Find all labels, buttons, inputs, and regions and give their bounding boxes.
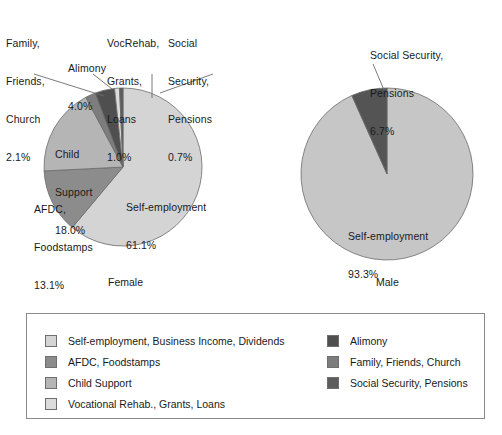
callout-line: Loans — [107, 113, 159, 126]
legend-item: Social Security, Pensions — [327, 373, 468, 393]
slice-label-value: 13.1% — [34, 279, 93, 292]
legend-swatch — [45, 356, 57, 368]
callout-line: Alimony — [68, 62, 106, 75]
legend-item: Child Support — [45, 373, 285, 393]
legend-swatch — [327, 377, 339, 389]
legend-label: AFDC, Foodstamps — [68, 356, 160, 368]
legend-label: Child Support — [68, 377, 132, 389]
legend-label: Self-employment, Business Income, Divide… — [68, 335, 285, 347]
slice-label-line: AFDC, — [34, 203, 93, 216]
callout-value: 1.0% — [107, 151, 159, 164]
female-chart-caption: Female — [108, 276, 143, 288]
callout-value: 6.7% — [370, 125, 443, 138]
legend-swatch — [45, 398, 57, 410]
legend-item: Family, Friends, Church — [327, 352, 468, 372]
callout-value: 4.0% — [68, 100, 106, 113]
legend-item: Self-employment, Business Income, Divide… — [45, 331, 285, 351]
callout-line: Social Security, — [370, 49, 443, 62]
callout-line: Family, — [6, 37, 45, 50]
callout-vocrehab-grants-loans: VocRehab, Grants, Loans 1.0% — [107, 12, 159, 188]
slice-label-line: Foodstamps — [34, 241, 93, 254]
legend-item: Alimony — [327, 331, 468, 351]
legend-swatch — [45, 377, 57, 389]
callout-value: 0.7% — [168, 151, 212, 164]
callout-male-social-security-pensions: Social Security, Pensions 6.7% — [370, 24, 443, 163]
callout-line: Pensions — [370, 87, 443, 100]
slice-label-female-afdc-foodstamps: AFDC, Foodstamps 13.1% — [34, 178, 93, 317]
legend-label: Family, Friends, Church — [350, 356, 461, 368]
legend-label: Social Security, Pensions — [350, 377, 468, 389]
callout-social-security-pensions: Social Security, Pensions 0.7% — [168, 12, 212, 188]
legend-column-right: AlimonyFamily, Friends, ChurchSocial Sec… — [327, 331, 468, 394]
callout-line: Grants, — [107, 75, 159, 88]
callout-family-friends-church: Family, Friends, Church 2.1% — [6, 12, 45, 188]
slice-label-value: 61.1% — [126, 239, 206, 252]
callout-line: Friends, — [6, 75, 45, 88]
callout-line: Pensions — [168, 113, 212, 126]
legend-swatch — [327, 335, 339, 347]
male-chart-caption: Male — [376, 276, 399, 288]
legend-item: AFDC, Foodstamps — [45, 352, 285, 372]
callout-line: Social — [168, 37, 212, 50]
slice-label-female-self-employment: Self-employment 61.1% — [126, 176, 206, 277]
legend-column-left: Self-employment, Business Income, Divide… — [45, 331, 285, 415]
slice-label-line: Self-employment — [348, 230, 428, 243]
legend-item: Vocational Rehab., Grants, Loans — [45, 394, 285, 414]
legend-label: Alimony — [350, 335, 387, 347]
legend: Self-employment, Business Income, Divide… — [26, 313, 485, 419]
callout-line: Church — [6, 113, 45, 126]
callout-value: 2.1% — [6, 151, 45, 164]
pie-chart-figure: Family, Friends, Church 2.1% Alimony 4.0… — [0, 0, 502, 435]
legend-swatch — [45, 335, 57, 347]
slice-label-male-self-employment: Self-employment 93.3% — [348, 205, 428, 306]
slice-label-line: Self-employment — [126, 201, 206, 214]
callout-line: Security, — [168, 75, 212, 88]
callout-line: VocRehab, — [107, 37, 159, 50]
legend-swatch — [327, 356, 339, 368]
legend-label: Vocational Rehab., Grants, Loans — [68, 398, 225, 410]
slice-label-line: Child — [55, 148, 92, 161]
